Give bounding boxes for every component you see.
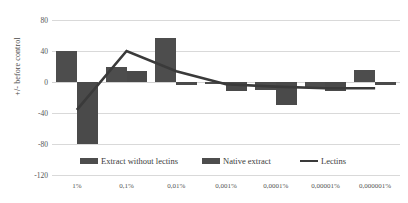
chart-container: +/- before control 80400-40-80-120 Extra… (0, 0, 408, 203)
legend-bar-swatch-icon (80, 158, 98, 164)
y-tick-label: -120 (6, 171, 52, 180)
chart-legend: Extract without lectinsNative extractLec… (52, 154, 400, 168)
x-tick-label: 0,01% (167, 182, 185, 190)
x-tick-label: 1% (72, 182, 81, 190)
y-axis-labels: 80400-40-80-120 (0, 0, 52, 203)
lectins-line-series (52, 20, 400, 175)
x-tick-label: 0,000001% (359, 182, 391, 190)
y-tick-label: 0 (6, 78, 52, 87)
y-tick-label: 80 (6, 16, 52, 25)
plot-area (52, 20, 400, 175)
x-tick-label: 0,00001% (311, 182, 340, 190)
legend-item-label: Lectins (321, 156, 346, 166)
legend-item-2[interactable]: Lectins (300, 156, 346, 166)
legend-bar-swatch-icon (202, 158, 220, 164)
legend-line-swatch-icon (300, 160, 318, 163)
legend-item-0[interactable]: Extract without lectins (80, 156, 178, 166)
legend-item-1[interactable]: Native extract (202, 156, 271, 166)
x-tick-label: 0,0001% (263, 182, 288, 190)
legend-item-label: Extract without lectins (101, 156, 178, 166)
lectins-polyline (77, 51, 375, 110)
y-tick-label: -80 (6, 140, 52, 149)
legend-item-label: Native extract (223, 156, 271, 166)
gridline (52, 175, 400, 176)
x-axis-labels: 1%0,1%0,01%0,001%0,0001%0,00001%0,000001… (52, 182, 400, 196)
y-tick-label: 40 (6, 47, 52, 56)
y-tick-label: -40 (6, 109, 52, 118)
x-tick-label: 0,1% (119, 182, 134, 190)
x-tick-label: 0,001% (215, 182, 237, 190)
